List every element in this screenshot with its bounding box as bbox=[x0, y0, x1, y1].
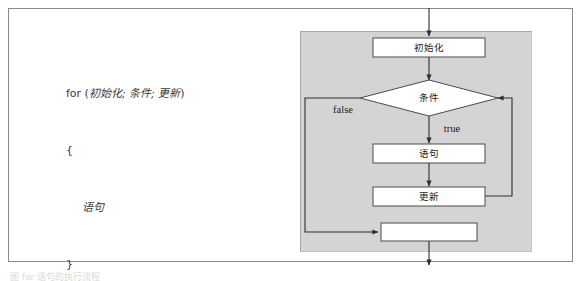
figure-caption: 图 for 语句的执行流程 bbox=[10, 270, 310, 281]
edge-update-to-condition bbox=[485, 98, 512, 196]
flow-node-init-label: 初始化 bbox=[414, 42, 444, 53]
flow-node-statement-label: 语句 bbox=[419, 148, 439, 159]
flow-node-update-label: 更新 bbox=[419, 191, 439, 202]
flowchart-canvas: 初始化 条件 语句 更新 false true bbox=[0, 0, 583, 281]
edge-label-false: false bbox=[333, 104, 353, 115]
edge-label-true: true bbox=[444, 123, 461, 134]
flow-node-exit[interactable] bbox=[381, 223, 477, 241]
flow-node-condition-label: 条件 bbox=[419, 92, 439, 103]
edge-condition-false-to-exit bbox=[305, 98, 378, 232]
